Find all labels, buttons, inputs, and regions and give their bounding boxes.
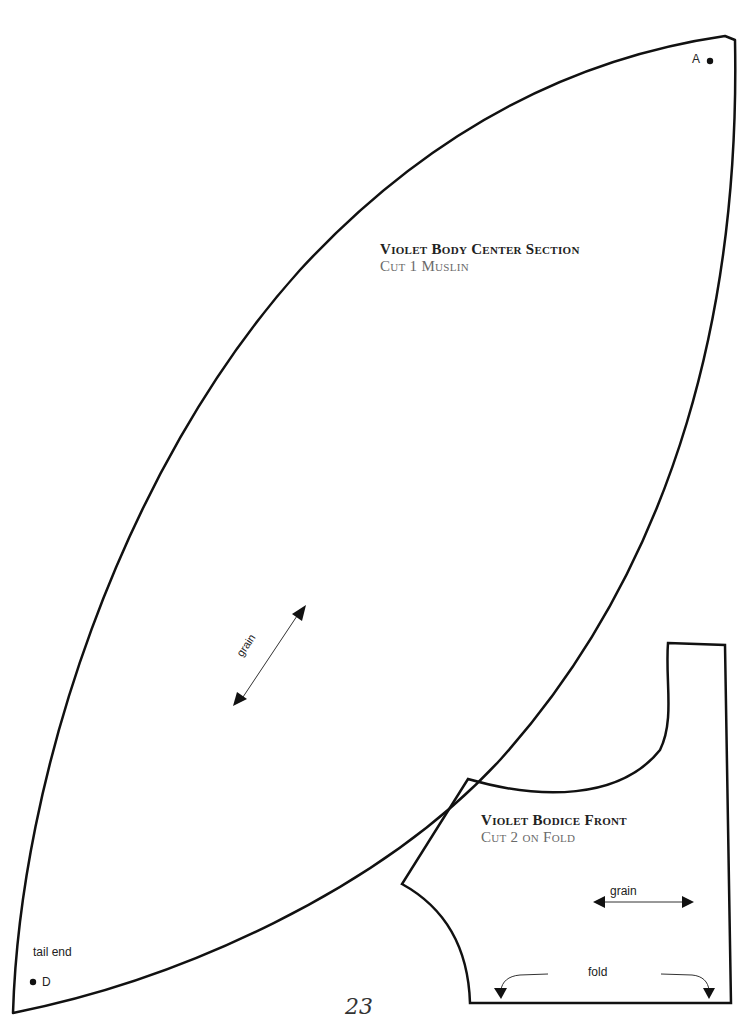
piece-cut-instruction: Cut 2 on Fold [481, 829, 627, 846]
grain-label-horizontal: grain [610, 884, 637, 898]
point-d-dot [30, 979, 36, 985]
tail-end-label: tail end [33, 945, 72, 959]
body-center-section-outline [13, 36, 735, 1013]
point-a-label: A [692, 52, 700, 66]
body-center-section-label: Violet Body Center Section Cut 1 Muslin [380, 241, 580, 276]
pattern-sheet [0, 0, 750, 1026]
point-d-label: D [42, 975, 51, 989]
piece-cut-instruction: Cut 1 Muslin [380, 258, 580, 275]
point-a-dot [707, 58, 713, 64]
bodice-front-label: Violet Bodice Front Cut 2 on Fold [481, 812, 627, 847]
piece-title: Violet Bodice Front [481, 812, 627, 829]
fold-arrow-right [661, 974, 715, 999]
fold-label: fold [588, 965, 607, 979]
page-number: 23 [345, 994, 373, 1019]
grain-arrow-horizontal [593, 896, 694, 908]
piece-title: Violet Body Center Section [380, 241, 580, 258]
fold-arrow-left [494, 974, 548, 999]
